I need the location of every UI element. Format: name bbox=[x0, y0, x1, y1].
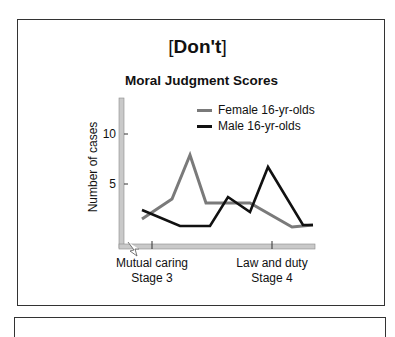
legend-label-male: Male 16-yr-olds bbox=[218, 119, 301, 133]
x-category-stage4-stage: Stage 4 bbox=[217, 271, 327, 286]
x-category-stage3-stage: Stage 3 bbox=[97, 271, 207, 286]
x-category-stage4: Law and duty Stage 4 bbox=[217, 256, 327, 286]
y-axis bbox=[119, 98, 124, 248]
next-panel-frame bbox=[14, 317, 386, 337]
x-axis bbox=[119, 244, 315, 249]
x-category-stage4-name: Law and duty bbox=[217, 256, 327, 271]
x-category-stage3-name: Mutual caring bbox=[97, 256, 207, 271]
male-series-line bbox=[142, 167, 313, 226]
legend-item-female: Female 16-yr-olds bbox=[197, 103, 315, 117]
female-series-line bbox=[142, 155, 313, 227]
x-category-stage3: Mutual caring Stage 3 bbox=[97, 256, 207, 286]
legend-item-male: Male 16-yr-olds bbox=[197, 119, 301, 133]
legend-label-female: Female 16-yr-olds bbox=[218, 103, 315, 117]
legend-swatch-male bbox=[197, 125, 212, 128]
y-axis-label: Number of cases bbox=[86, 102, 100, 232]
legend-swatch-female bbox=[197, 109, 212, 112]
